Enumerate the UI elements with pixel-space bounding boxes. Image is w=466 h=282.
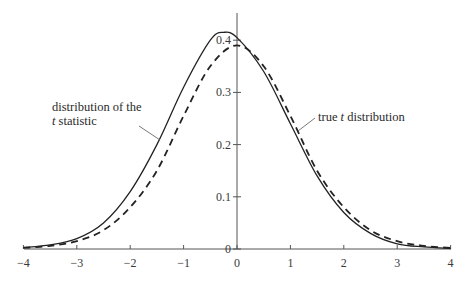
x-tick-label: −1 xyxy=(177,256,190,270)
axes: −4−3−2−101234 00.10.20.30.4 xyxy=(17,13,454,270)
annotation-sample-line1: distribution of the xyxy=(52,100,142,114)
x-tick-label: −2 xyxy=(124,256,137,270)
annotations: distribution of the t statistic true t d… xyxy=(52,100,406,140)
x-tick-label: 4 xyxy=(448,256,454,270)
t-distribution-chart: −4−3−2−101234 00.10.20.30.4 distribution… xyxy=(0,0,466,282)
annotation-true-t-leader xyxy=(298,118,315,131)
annotation-sample-line2: t statistic xyxy=(52,114,97,128)
y-tick-label: 0.2 xyxy=(216,138,231,152)
x-tick-label: −3 xyxy=(70,256,83,270)
y-tick-label: 0.4 xyxy=(216,33,231,47)
annotation-true-t: true t distribution xyxy=(318,110,406,124)
x-tick-label: 0 xyxy=(234,256,240,270)
annotation-sample-leader xyxy=(139,126,160,140)
x-tick-label: −4 xyxy=(17,256,30,270)
x-tick-label: 1 xyxy=(287,256,293,270)
y-tick-label: 0 xyxy=(225,242,231,256)
x-tick-label: 3 xyxy=(394,256,400,270)
x-tick-label: 2 xyxy=(341,256,347,270)
y-tick-label: 0.3 xyxy=(216,85,231,99)
y-tick-label: 0.1 xyxy=(216,190,231,204)
